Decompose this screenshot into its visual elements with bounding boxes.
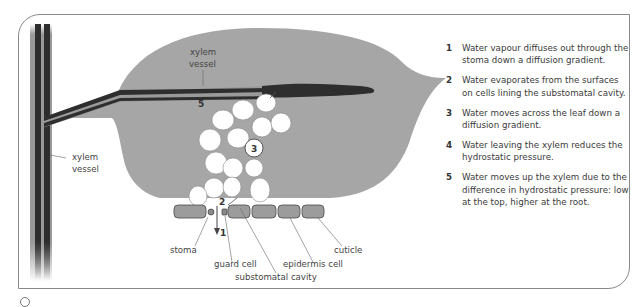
label-cuticle: cuticle	[334, 245, 362, 255]
step-number: 1	[446, 42, 462, 67]
step-item: 2 Water evaporates from the surfaces on …	[446, 74, 630, 99]
step-text: Water evaporates from the surfaces on ce…	[462, 74, 630, 99]
step-text: Water vapour diffuses out through the st…	[462, 42, 630, 67]
marker-5: 5	[198, 99, 204, 109]
marker-2: 2	[219, 197, 225, 207]
marker-1: 1	[220, 228, 226, 238]
label-epidermis-cell: epidermis cell	[283, 259, 343, 269]
label-substomatal-cavity: substomatal cavity	[235, 272, 317, 282]
step-number: 4	[446, 139, 462, 164]
label-xylem-vessel-leaf-2: vessel	[189, 59, 216, 69]
label-xylem-vessel-leaf-1: xylem	[190, 47, 216, 57]
step-item: 5 Water moves up the xylem due to the di…	[446, 171, 630, 208]
step-item: 3 Water moves across the leaf down a dif…	[446, 107, 630, 132]
marker-3: 3	[251, 144, 257, 154]
figure-marker-icon	[20, 297, 30, 307]
label-xylem-vessel-stem-1: xylem	[72, 152, 98, 162]
label-stoma: stoma	[170, 245, 197, 255]
step-text: Water leaving the xylem reduces the hydr…	[462, 139, 630, 164]
step-number: 5	[446, 171, 462, 208]
steps-list: 1 Water vapour diffuses out through the …	[446, 42, 630, 216]
step-number: 3	[446, 107, 462, 132]
epidermis	[174, 205, 324, 218]
step-text: Water moves across the leaf down a diffu…	[462, 107, 630, 132]
step-number: 2	[446, 74, 462, 99]
step-item: 1 Water vapour diffuses out through the …	[446, 42, 630, 67]
stem-xylem-tube	[44, 24, 50, 280]
label-xylem-vessel-stem-2: vessel	[72, 164, 99, 174]
step-item: 4 Water leaving the xylem reduces the hy…	[446, 139, 630, 164]
label-guard-cell: guard cell	[214, 259, 257, 269]
stem-xylem-tube	[35, 24, 41, 280]
step-text: Water moves up the xylem due to the diff…	[462, 171, 630, 208]
